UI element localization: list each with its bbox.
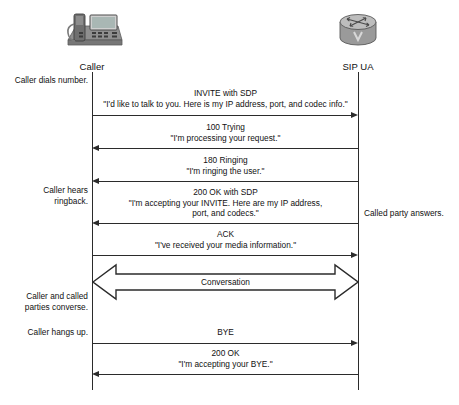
message-180-ringing-arrow-line: [99, 181, 358, 182]
message-200-ok-arrow-head: [92, 371, 99, 377]
note-caller-ringback-line1: Caller hears: [4, 185, 88, 196]
message-bye-arrow-head: [351, 340, 358, 346]
note-parties-converse-line1: Caller and called: [4, 291, 88, 302]
message-ack-quote: "I've received your media information.": [93, 240, 358, 251]
message-200-ok-text: 200 OK "I'm accepting your BYE.": [93, 348, 358, 369]
note-caller-dials: Caller dials number.: [4, 75, 88, 86]
message-ack-arrow-line: [93, 255, 351, 256]
message-ack-title: ACK: [93, 229, 358, 240]
note-called-party-answers: Called party answers.: [364, 208, 459, 219]
message-200-ok-sdp-title: 200 OK with SDP: [93, 187, 358, 198]
message-200-ok-sdp-text: 200 OK with SDP "I'm accepting your INVI…: [93, 187, 358, 219]
message-bye-text: BYE: [93, 327, 358, 338]
message-invite-arrow-line: [93, 115, 351, 116]
note-caller-ringback: Caller hears ringback.: [4, 185, 88, 206]
message-200-ok-sdp-quote2: port, and codecs.": [93, 208, 358, 219]
message-100-trying-arrow-head: [92, 145, 99, 151]
message-bye-arrow-line: [93, 343, 351, 344]
message-invite-text: INVITE with SDP "I'd like to talk to you…: [93, 88, 358, 109]
message-180-ringing-title: 180 Ringing: [93, 155, 358, 166]
message-180-ringing-text: 180 Ringing "I'm ringing the user.": [93, 155, 358, 176]
lifeline-sip-ua: [358, 72, 359, 390]
message-200-ok-title: 200 OK: [93, 348, 358, 359]
note-parties-converse-line2: parties converse.: [4, 302, 88, 313]
endpoint-caller-label: Caller: [52, 61, 132, 72]
message-100-trying-text: 100 Trying "I'm processing your request.…: [93, 122, 358, 143]
message-ack-arrow-head: [351, 252, 358, 258]
message-invite-arrow-head: [351, 112, 358, 118]
message-ack-text: ACK "I've received your media informatio…: [93, 229, 358, 250]
ip-phone-icon: [52, 6, 132, 56]
message-100-trying-quote: "I'm processing your request.": [93, 133, 358, 144]
message-100-trying-title: 100 Trying: [93, 122, 358, 133]
message-200-ok-sdp-arrow-line: [99, 223, 358, 224]
message-180-ringing-arrow-head: [92, 178, 99, 184]
router-icon: [320, 8, 396, 56]
message-invite-quote: "I'd like to talk to you. Here is my IP …: [93, 99, 358, 110]
message-bye-title: BYE: [93, 327, 358, 338]
note-caller-ringback-line2: ringback.: [4, 196, 88, 207]
message-200-ok-quote: "I'm accepting your BYE.": [93, 359, 358, 370]
sequence-diagram-canvas: Caller SIP UA Caller dials number. Calle…: [0, 0, 459, 405]
endpoint-sip-ua: SIP UA: [320, 8, 396, 72]
message-conversation-label: Conversation: [93, 277, 358, 287]
message-180-ringing-quote: "I'm ringing the user.": [93, 166, 358, 177]
message-invite-title: INVITE with SDP: [93, 88, 358, 99]
message-100-trying-arrow-line: [99, 148, 358, 149]
message-200-ok-sdp-quote: "I'm accepting your INVITE. Here are my …: [93, 198, 358, 209]
note-caller-hangs-up: Caller hangs up.: [4, 327, 88, 338]
endpoint-sip-ua-label: SIP UA: [320, 61, 396, 72]
endpoint-caller: Caller: [52, 6, 132, 72]
message-200-ok-sdp-arrow-head: [92, 220, 99, 226]
message-200-ok-arrow-line: [99, 374, 358, 375]
note-parties-converse: Caller and called parties converse.: [4, 291, 88, 312]
